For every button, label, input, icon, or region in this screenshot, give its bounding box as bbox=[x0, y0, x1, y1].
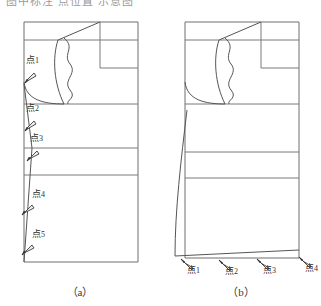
pocket-rect-b bbox=[261, 22, 299, 68]
body-outline-b bbox=[185, 22, 299, 258]
ruffle-scallop-a bbox=[64, 38, 72, 104]
shoulder-line-a bbox=[58, 22, 100, 40]
pattern-panel-b: 点1 点2 点3 点4 （b） bbox=[161, 0, 321, 306]
point-marker-a-2[interactable] bbox=[25, 121, 36, 131]
point-label-a-1: 点1 bbox=[26, 56, 39, 65]
point-label-b-2: 点2 bbox=[225, 267, 238, 276]
point-marker-a-3[interactable] bbox=[27, 151, 39, 161]
panel-caption-b: （b） bbox=[161, 283, 321, 299]
pocket-rect-a bbox=[100, 22, 138, 68]
point-label-a-2: 点2 bbox=[26, 104, 39, 113]
figure-root: 图中标注 点位置 示意图 bbox=[0, 0, 321, 306]
point-label-a-3: 点3 bbox=[30, 134, 43, 143]
point-marker-group-b bbox=[181, 257, 311, 271]
point-label-b-3: 点3 bbox=[263, 266, 276, 275]
panel-caption-a: （a） bbox=[0, 283, 160, 299]
point-label-b-4: 点4 bbox=[305, 264, 318, 273]
front-edge-curve-a bbox=[55, 40, 64, 104]
pattern-panel-a: 点1 点2 点3 点4 点5 （a） bbox=[0, 0, 160, 306]
shoulder-line-b bbox=[219, 22, 261, 40]
pattern-drawing-b bbox=[161, 0, 321, 306]
hem-line-b bbox=[175, 250, 299, 256]
point-label-a-5: 点5 bbox=[32, 230, 45, 239]
hem-arc-a bbox=[24, 82, 64, 104]
pattern-drawing-a bbox=[0, 0, 160, 306]
front-edge-curve-b bbox=[216, 40, 225, 104]
hem-arc-b bbox=[185, 82, 225, 104]
point-label-b-1: 点1 bbox=[187, 266, 200, 275]
point-marker-a-1[interactable] bbox=[25, 73, 36, 83]
ruffle-scallop-b bbox=[225, 38, 233, 104]
point-label-a-4: 点4 bbox=[32, 190, 45, 199]
